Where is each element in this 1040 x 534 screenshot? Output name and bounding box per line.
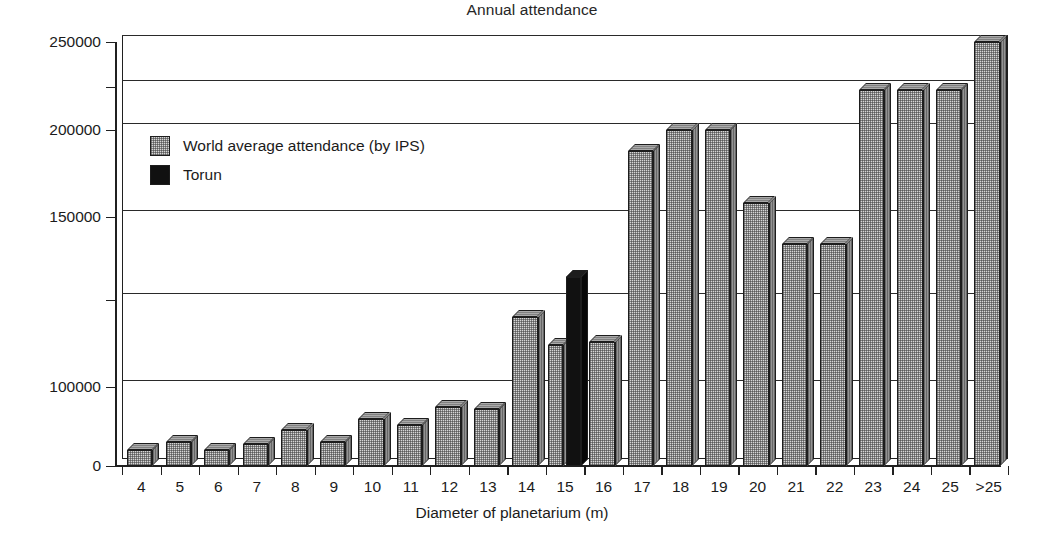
value-axis-tick [106,87,115,88]
category-axis-tick [777,466,778,475]
category-axis-label: 12 [441,478,458,496]
category-axis-tick [122,466,123,475]
category-axis-label: 20 [749,478,766,496]
category-axis-tick [854,466,855,475]
category-axis-label: 18 [672,478,689,496]
bar-front-face [936,90,961,466]
bar-side-face [1000,35,1007,466]
bar-world-average-9 [320,442,345,466]
bar-front-face [512,317,537,466]
legend-item-torun: Torun [150,160,425,189]
category-axis-label: 8 [291,478,300,496]
bar-side-face [692,123,699,466]
bar-side-face [923,83,930,466]
category-axis-tick [546,466,547,475]
bar-front-face [859,90,884,466]
category-axis-tick [161,466,162,475]
bar-front-face [589,342,614,466]
value-axis-tick [106,466,115,467]
bar-side-face [384,412,391,466]
bar-world-average-16 [589,342,614,466]
value-axis-tick [106,130,115,131]
bar-front-face [281,430,306,466]
value-axis-label: 100000 [49,378,101,396]
legend-swatch-torun-icon [150,165,170,185]
value-axis-tick [106,387,115,388]
bar-front-face [782,244,807,466]
category-axis-label: 16 [595,478,612,496]
value-axis-label: 150000 [49,208,101,226]
bar-world-average-25 [936,90,961,466]
value-axis [115,42,117,466]
bar-world-average-21 [782,244,807,466]
legend-swatch-world-average-icon [150,136,170,156]
value-axis-label: 200000 [49,121,101,139]
category-axis-tick [661,466,662,475]
bar-front-face [897,90,922,466]
value-axis-tick [106,42,115,43]
bar-front-face [397,425,422,466]
category-axis-label: 5 [175,478,184,496]
bar-side-face [807,237,814,466]
plot-area: 0100000150000200000250000 45678910111213… [0,0,1040,534]
bar-world-average->25 [974,42,999,466]
bar-side-face [615,335,622,466]
bar-side-face [653,144,660,466]
bar-side-face [846,237,853,466]
category-axis-label: 19 [710,478,727,496]
category-axis-label: >25 [976,478,1002,496]
x-axis-title-text: Diameter of planetarium (m) [416,504,609,522]
category-axis-tick [469,466,470,475]
bar-side-face [538,310,545,466]
category-axis-label: 10 [364,478,381,496]
bar-side-face [422,418,429,466]
bar-side-face [307,423,314,466]
category-axis-tick [738,466,739,475]
category-axis-tick [623,466,624,475]
bar-world-average-15 [548,345,563,466]
bar-front-face [628,151,653,466]
bar-side-face [499,402,506,466]
bar-front-face [743,203,768,466]
bar-world-average-5 [166,442,191,466]
value-axis-label: 0 [92,457,101,475]
value-axis-label: 250000 [49,33,101,51]
value-axis-tick [106,300,115,301]
bar-world-average-12 [435,407,460,466]
bar-side-face [769,196,776,466]
bar-front-face [474,409,499,466]
bar-world-average-22 [820,244,845,466]
category-axis-tick [931,466,932,475]
bar-world-average-13 [474,409,499,466]
category-axis-tick [584,466,585,475]
bar-world-average-18 [666,130,691,466]
bar-side-face [461,400,468,466]
bar-front-face [166,442,191,466]
bar-front-face [666,130,691,466]
bar-world-average-8 [281,430,306,466]
category-axis-label: 6 [214,478,223,496]
gridline [122,80,1008,81]
legend-label-torun: Torun [183,166,222,184]
bar-front-face [127,450,152,466]
bar-world-average-20 [743,203,768,466]
category-axis-tick [969,466,970,475]
bar-torun [566,277,581,466]
legend-item-world-average: World average attendance (by IPS) [150,131,425,160]
category-axis-label: 15 [556,478,573,496]
category-axis-tick [1008,466,1009,475]
bar-front-face [435,407,460,466]
legend-label-world-average: World average attendance (by IPS) [183,137,425,155]
bar-world-average-17 [628,151,653,466]
bar-front-face [243,444,268,466]
bar-world-average-14 [512,317,537,466]
category-axis-tick [430,466,431,475]
bar-side-face [730,123,737,466]
category-axis-label: 22 [826,478,843,496]
annual-attendance-chart: Annual attendance 0100000150000200000250… [0,0,1040,534]
category-axis-label: 7 [253,478,262,496]
bar-world-average-6 [204,450,229,466]
category-axis-label: 17 [633,478,650,496]
bar-front-face [705,130,730,466]
gridline [122,35,1008,36]
